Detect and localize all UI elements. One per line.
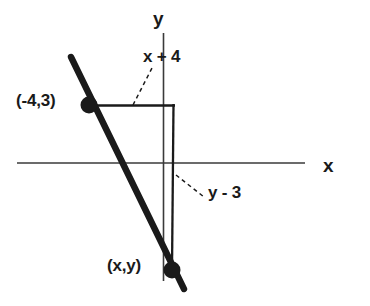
point-marker-b	[164, 262, 181, 279]
point-label-b: (x,y)	[107, 257, 141, 274]
run-leader-line	[133, 67, 153, 105]
point-marker-a	[81, 97, 98, 114]
figure-canvas	[0, 0, 370, 306]
rise-annotation-label: y - 3	[208, 184, 241, 201]
slope-triangle-figure: y x (-4,3) (x,y) x + 4 y - 3	[0, 0, 370, 306]
x-axis-label: x	[323, 156, 333, 175]
rise-leg-segment	[172, 104, 174, 270]
secant-line	[71, 57, 184, 289]
point-label-a: (-4,3)	[16, 92, 55, 109]
y-axis-label: y	[153, 9, 163, 28]
run-annotation-label: x + 4	[143, 48, 180, 65]
rise-leader-line	[176, 175, 204, 197]
